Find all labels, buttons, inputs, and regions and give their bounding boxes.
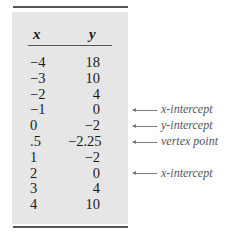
- cell-y: 18: [68, 54, 100, 70]
- table-row: 0−2y-intercept: [0, 117, 228, 133]
- annotation-label: x-intercept: [161, 166, 213, 180]
- arrow-left-icon: [133, 173, 157, 174]
- cell-x: 3: [30, 180, 52, 196]
- arrow-left-icon: [133, 110, 157, 111]
- annotation-label: x-intercept: [161, 102, 213, 116]
- arrow-left-icon: [133, 126, 157, 127]
- arrow-left-icon: [133, 142, 157, 143]
- cell-y: 10: [68, 196, 100, 212]
- annotation-label: y-intercept: [161, 118, 213, 132]
- annotation: vertex point: [133, 133, 218, 149]
- table-row: −10x-intercept: [0, 101, 228, 117]
- table-row: −310: [0, 70, 228, 86]
- cell-x: 4: [30, 196, 52, 212]
- cell-y: −2.25: [68, 133, 100, 149]
- annotation: x-intercept: [133, 165, 213, 181]
- annotation: y-intercept: [133, 117, 213, 133]
- cell-y: 10: [68, 70, 100, 86]
- cell-y: 0: [68, 101, 100, 117]
- table-row: 34: [0, 180, 228, 196]
- header-y: y: [89, 26, 96, 43]
- cell-y: −2: [68, 149, 100, 165]
- cell-x: −2: [30, 86, 52, 102]
- cell-x: −3: [30, 70, 52, 86]
- cell-x: −4: [30, 54, 52, 70]
- header-divider: [28, 45, 112, 46]
- cell-y: −2: [68, 117, 100, 133]
- table-row: .5−2.25vertex point: [0, 133, 228, 149]
- table-row: 20x-intercept: [0, 165, 228, 181]
- bottom-rule: [13, 226, 128, 228]
- cell-y: 0: [68, 165, 100, 181]
- cell-x: 0: [30, 117, 52, 133]
- table-row: 1−2: [0, 149, 228, 165]
- table-row: 410: [0, 196, 228, 212]
- annotation: x-intercept: [133, 101, 213, 117]
- top-rule: [13, 6, 128, 8]
- cell-x: 1: [30, 149, 52, 165]
- cell-y: 4: [68, 180, 100, 196]
- cell-x: .5: [30, 133, 52, 149]
- annotation-label: vertex point: [161, 134, 218, 148]
- cell-y: 4: [68, 86, 100, 102]
- table-row: −24: [0, 86, 228, 102]
- cell-x: 2: [30, 165, 52, 181]
- table-row: −418: [0, 54, 228, 70]
- cell-x: −1: [30, 101, 52, 117]
- header-x: x: [33, 26, 41, 43]
